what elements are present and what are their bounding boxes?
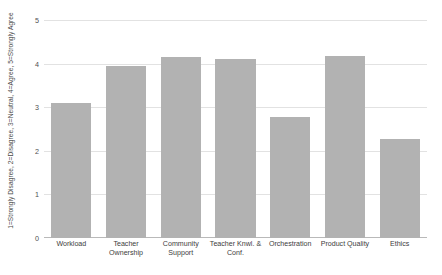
bar-chart: 1=Strongly Disagree, 2=Disagree, 3=Neutr… bbox=[0, 0, 442, 275]
y-tick-label-1: 1 bbox=[35, 190, 39, 199]
x-axis-label: Orchestration bbox=[263, 240, 318, 249]
bar[interactable] bbox=[380, 139, 420, 238]
y-axis-title-text: 1=Strongly Disagree, 2=Disagree, 3=Neutr… bbox=[7, 12, 14, 229]
x-axis-category-labels: WorkloadTeacher OwnershipCommunity Suppo… bbox=[44, 240, 427, 274]
bar[interactable] bbox=[215, 59, 255, 238]
y-tick-label-4: 4 bbox=[35, 59, 39, 68]
x-axis-label: Teacher Ownership bbox=[99, 240, 154, 258]
bar[interactable] bbox=[325, 56, 365, 238]
y-axis-title: 1=Strongly Disagree, 2=Disagree, 3=Neutr… bbox=[0, 0, 20, 240]
y-tick-label-0: 0 bbox=[35, 234, 39, 243]
bar[interactable] bbox=[106, 66, 146, 238]
x-axis-label: Product Quality bbox=[318, 240, 373, 249]
x-axis-label: Community Support bbox=[153, 240, 208, 258]
x-axis-label: Ethics bbox=[372, 240, 427, 249]
plot-area: 012345 bbox=[44, 20, 427, 238]
y-tick-label-2: 2 bbox=[35, 146, 39, 155]
x-axis-label: Workload bbox=[44, 240, 99, 249]
bar[interactable] bbox=[270, 117, 310, 238]
bar[interactable] bbox=[51, 103, 91, 238]
bars-group bbox=[44, 20, 427, 238]
bar[interactable] bbox=[161, 57, 201, 238]
y-tick-label-5: 5 bbox=[35, 16, 39, 25]
y-tick-label-3: 3 bbox=[35, 103, 39, 112]
x-axis-label: Teacher Knwl. & Conf. bbox=[208, 240, 263, 258]
